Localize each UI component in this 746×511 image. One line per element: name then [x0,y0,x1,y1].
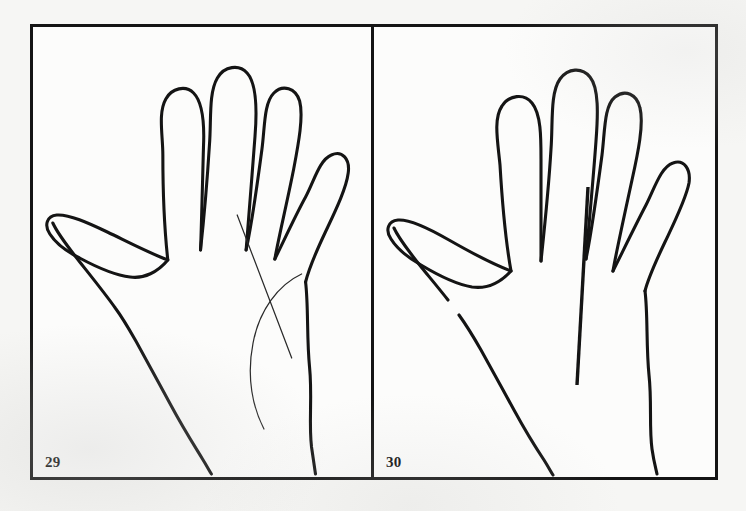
figure-panel-29[interactable]: 29 [33,27,374,477]
hand-outline-29 [33,27,371,477]
hand-29-palm-outer-edge [306,282,316,474]
figure-frame: 29 30 [30,24,718,480]
hand-30-vertical-palm-line [577,187,588,385]
hand-29-finger-ring [246,88,301,259]
hand-29-finger-middle [201,67,257,250]
hand-30-finger-ring [586,93,641,271]
hand-30-palm-outer-edge [645,291,657,474]
hand-30-finger-pinky [613,162,689,291]
hand-30-thumb-lower-edge-lower [459,315,553,475]
hand-29-thumb-web-and-thumb [47,215,168,277]
hand-30-finger-index [497,97,541,271]
panel-number-30: 30 [386,455,402,470]
hand-30-finger-middle [541,70,597,261]
hand-29-thumb-lower-edge-and-wrist [53,223,212,474]
panel-number-29: 29 [45,455,61,470]
hand-29-curved-palm-line [250,274,301,429]
page-top-text-bleed: · · · · · · · · · · · · [0,0,746,9]
hand-30-thumb-web-and-thumb [388,220,511,287]
page-top-text-bleed-glyphs: · · · · · · · · · · · · [96,0,297,4]
hand-29-finger-index [161,88,203,260]
figure-panel-30[interactable]: 30 [374,27,715,477]
hand-outline-30 [374,27,715,477]
hand-29-finger-pinky [275,154,349,282]
